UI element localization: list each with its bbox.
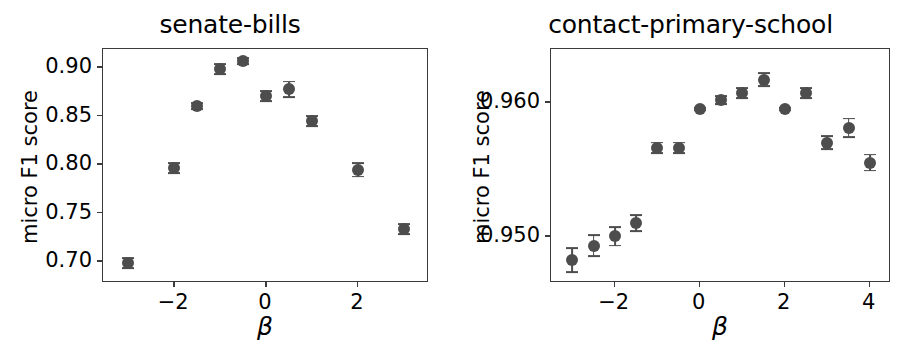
y-tick-label: 0.90 xyxy=(4,54,92,78)
data-point xyxy=(800,87,812,99)
y-tick-mark xyxy=(97,66,102,68)
x-tick-label: 0 xyxy=(692,290,705,314)
error-bar-cap xyxy=(843,136,855,138)
error-bar-cap xyxy=(864,170,876,172)
chart-panel-senate-bills: senate-bills micro F1 score β 0.700.750.… xyxy=(0,0,460,353)
y-tick-mark xyxy=(545,235,550,237)
x-axis-label-left: β xyxy=(102,312,428,341)
x-tick-mark xyxy=(173,282,175,287)
data-point xyxy=(566,254,578,266)
error-bar-cap xyxy=(283,96,295,98)
x-tick-mark xyxy=(784,282,786,287)
figure-canvas: senate-bills micro F1 score β 0.700.750.… xyxy=(0,0,921,353)
x-tick-label: 4 xyxy=(862,290,875,314)
data-point xyxy=(609,230,621,242)
plot-area-senate-bills xyxy=(102,48,428,282)
data-point xyxy=(736,87,748,99)
data-point xyxy=(122,257,134,269)
data-point xyxy=(651,142,663,154)
y-tick-label: 0.960 xyxy=(452,89,540,113)
x-tick-label: 0 xyxy=(258,290,271,314)
x-tick-mark xyxy=(357,282,359,287)
error-bar-cap xyxy=(352,176,364,178)
data-point xyxy=(352,164,364,176)
y-tick-label: 0.75 xyxy=(4,200,92,224)
data-point xyxy=(821,137,833,149)
data-point xyxy=(260,90,272,102)
data-point xyxy=(864,157,876,169)
data-point xyxy=(191,100,203,112)
error-bar-cap xyxy=(609,226,621,228)
data-point xyxy=(237,55,249,67)
panel-title-senate-bills: senate-bills xyxy=(0,10,460,39)
data-point xyxy=(758,74,770,86)
data-point xyxy=(306,115,318,127)
chart-panel-contact-primary-school: contact-primary-school micro F1 score β … xyxy=(460,0,921,353)
error-bar-cap xyxy=(864,154,876,156)
panel-title-contact-primary-school: contact-primary-school xyxy=(460,10,921,39)
y-tick-label: 0.950 xyxy=(452,223,540,247)
data-point xyxy=(398,223,410,235)
x-tick-label: −2 xyxy=(158,290,189,314)
data-point xyxy=(694,103,706,115)
error-bar-cap xyxy=(843,118,855,120)
y-tick-mark xyxy=(545,101,550,103)
plot-area-contact-primary-school xyxy=(550,48,890,282)
x-tick-mark xyxy=(869,282,871,287)
data-point xyxy=(843,122,855,134)
error-bar-cap xyxy=(821,148,833,150)
y-tick-mark xyxy=(97,212,102,214)
data-point xyxy=(283,83,295,95)
data-point xyxy=(630,217,642,229)
error-bar-cap xyxy=(630,230,642,232)
data-point xyxy=(779,103,791,115)
error-bar-cap xyxy=(283,81,295,83)
error-bar-cap xyxy=(609,245,621,247)
x-tick-mark xyxy=(614,282,616,287)
x-tick-label: 2 xyxy=(777,290,790,314)
y-tick-label: 0.70 xyxy=(4,248,92,272)
x-tick-mark xyxy=(699,282,701,287)
y-tick-label: 0.80 xyxy=(4,151,92,175)
x-tick-mark xyxy=(265,282,267,287)
x-axis-label-right: β xyxy=(550,312,890,341)
y-tick-mark xyxy=(97,115,102,117)
error-bar-cap xyxy=(566,271,578,273)
error-bar-cap xyxy=(566,247,578,249)
y-tick-label: 0.85 xyxy=(4,103,92,127)
data-point xyxy=(214,63,226,75)
error-bar-cap xyxy=(588,255,600,257)
error-bar-cap xyxy=(630,214,642,216)
x-tick-label: −2 xyxy=(598,290,629,314)
data-point xyxy=(588,240,600,252)
data-point xyxy=(168,162,180,174)
y-tick-mark xyxy=(97,163,102,165)
y-tick-mark xyxy=(97,260,102,262)
data-point xyxy=(673,142,685,154)
error-bar-cap xyxy=(588,234,600,236)
error-bar-cap xyxy=(758,86,770,88)
data-point xyxy=(715,94,727,106)
x-tick-label: 2 xyxy=(350,290,363,314)
